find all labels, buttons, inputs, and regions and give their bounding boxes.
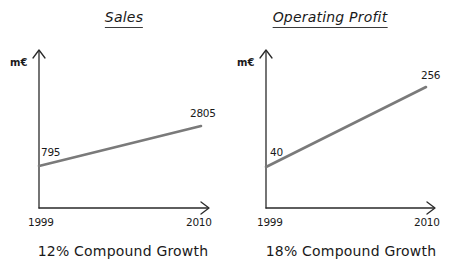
operating-profit-chart-title: Operating Profit <box>273 9 388 28</box>
operating-profit-growth-annotation: 18% Compound Growth <box>266 243 437 259</box>
operating-profit-y-axis-label: m€ <box>237 57 254 68</box>
operating-profit-x-tick-end: 2010 <box>414 216 440 228</box>
sales-trend-line <box>39 126 201 166</box>
operating-profit-chart-plot <box>225 0 450 272</box>
operating-profit-end-value: 256 <box>421 69 440 81</box>
sales-chart-title: Sales <box>105 9 143 28</box>
sales-growth-annotation: 12% Compound Growth <box>38 243 209 259</box>
operating-profit-trend-line <box>266 87 426 167</box>
sales-start-value: 795 <box>41 146 60 158</box>
sales-end-value: 2805 <box>190 107 216 119</box>
operating-profit-x-tick-start: 1999 <box>257 216 283 228</box>
sales-y-axis-label: m€ <box>10 57 27 68</box>
operating-profit-start-value: 40 <box>270 146 283 158</box>
sales-chart: Sales m€ 795 2805 1999 2010 12% Compound… <box>0 0 225 272</box>
operating-profit-chart: Operating Profit m€ 40 256 1999 2010 18%… <box>225 0 450 272</box>
sales-chart-plot <box>0 0 225 272</box>
sales-x-tick-end: 2010 <box>186 216 212 228</box>
sales-x-tick-start: 1999 <box>28 216 54 228</box>
